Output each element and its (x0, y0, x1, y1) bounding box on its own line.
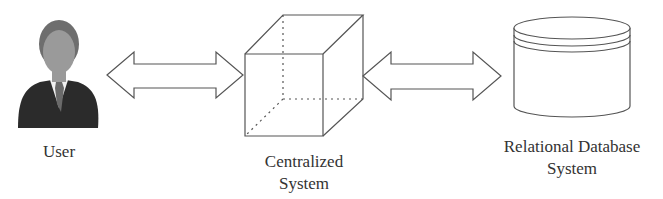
central-system-label: Centralized System (244, 151, 364, 195)
database-label: Relational Database System (490, 136, 654, 180)
database-cylinder-icon (514, 17, 630, 117)
central-label-line-1: Centralized (244, 151, 364, 173)
cube-icon (245, 15, 363, 136)
db-label-line-2: System (490, 158, 654, 180)
user-label: User (19, 141, 99, 163)
user-avatar-icon (18, 20, 98, 128)
central-label-line-2: System (244, 173, 364, 195)
bidirectional-arrow-central-db (363, 52, 501, 100)
user-label-line: User (19, 141, 99, 163)
db-label-line-1: Relational Database (490, 136, 654, 158)
bidirectional-arrow-user-central (107, 52, 243, 98)
